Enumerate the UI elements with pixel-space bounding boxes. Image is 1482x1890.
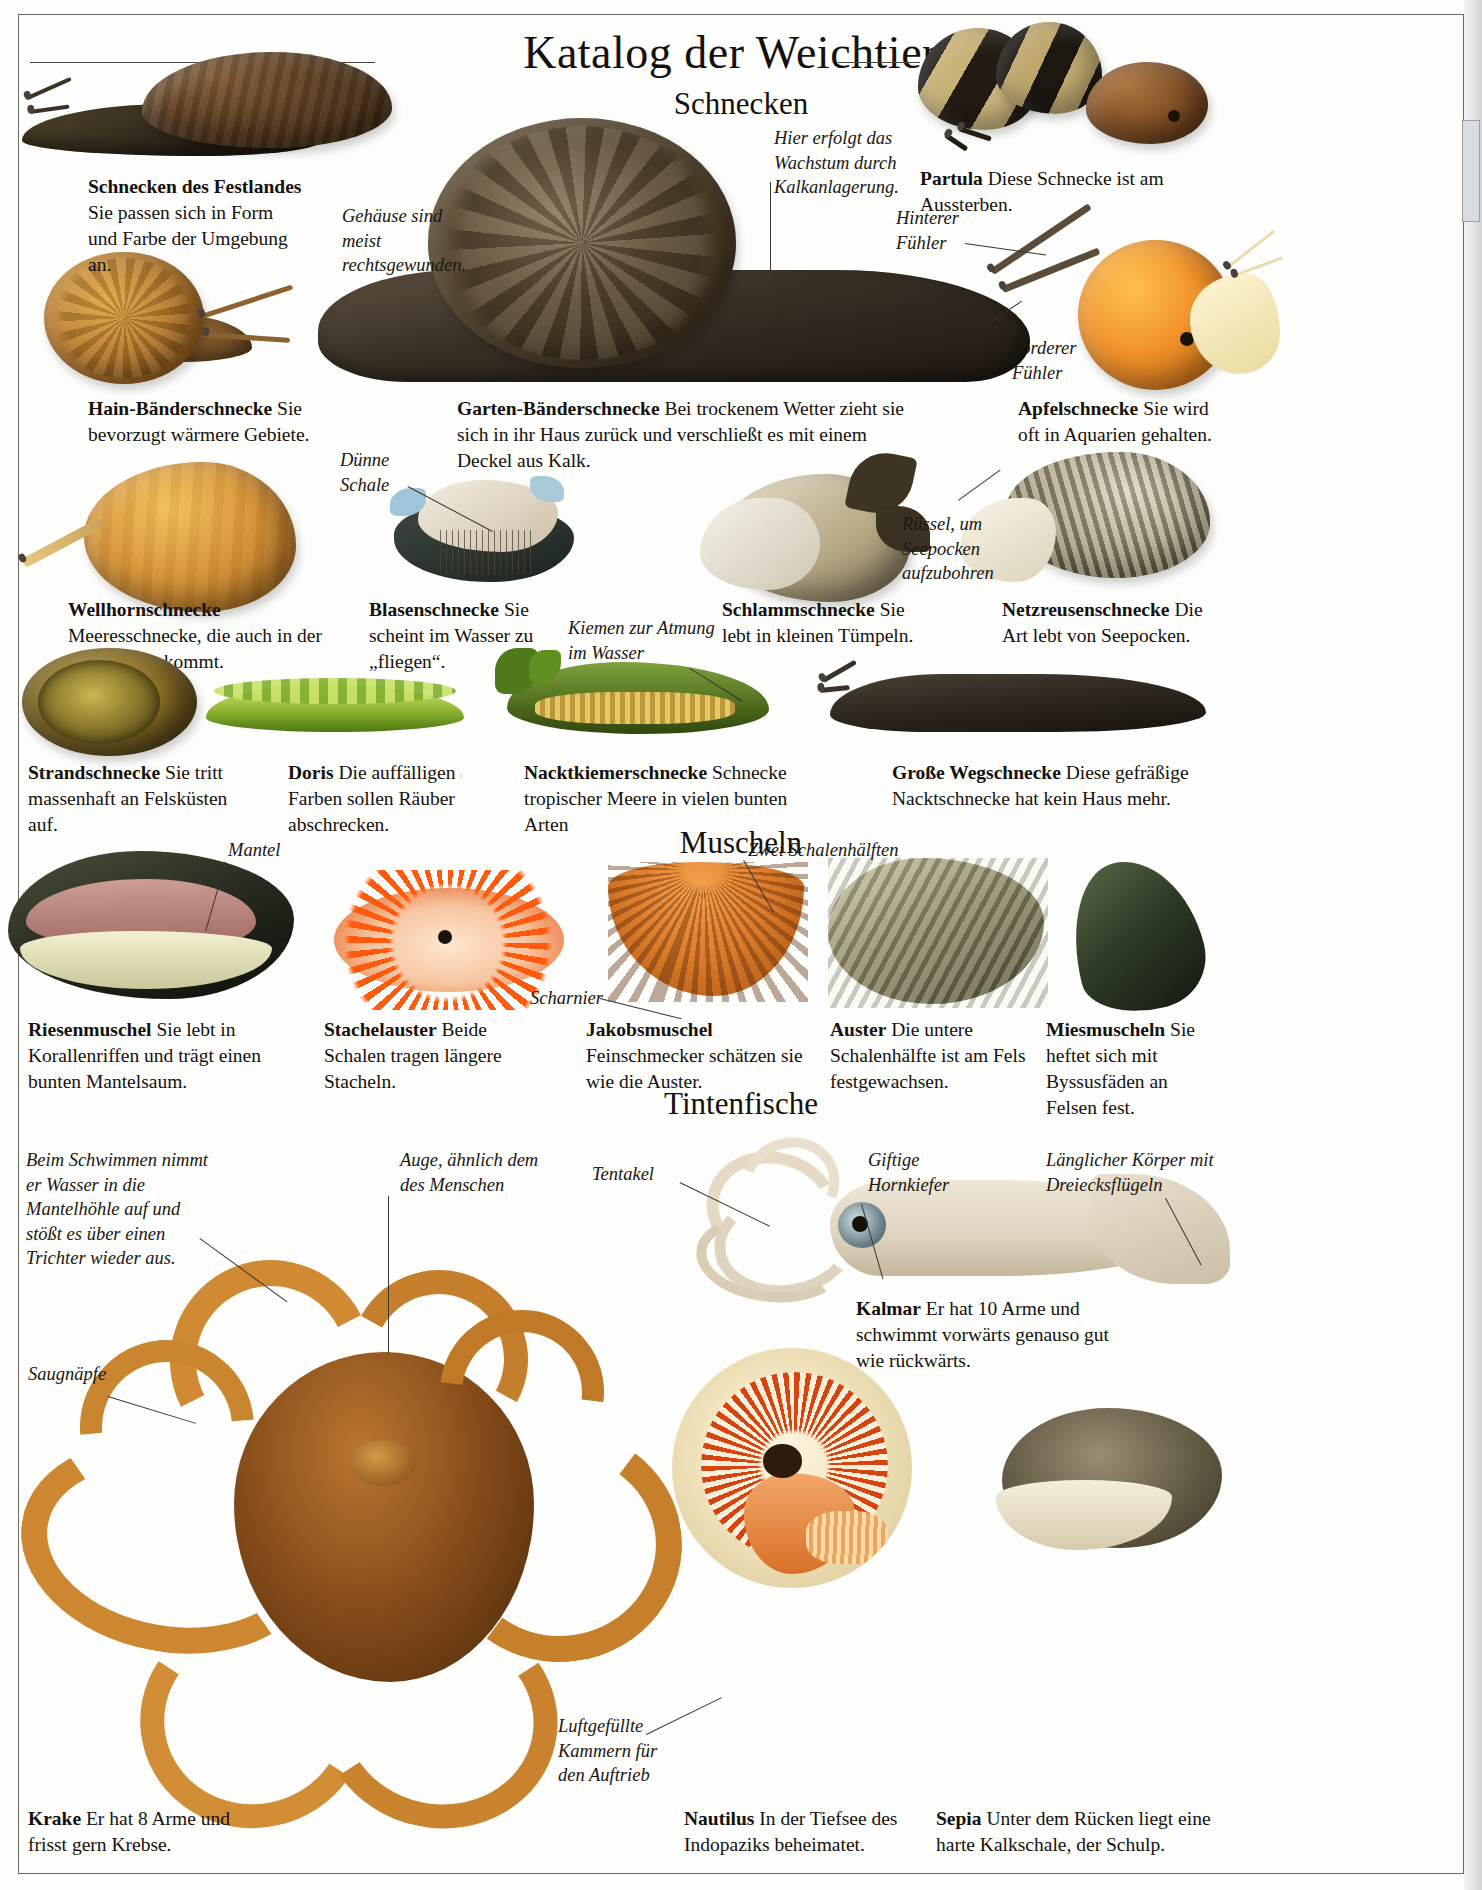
title-rule-right xyxy=(838,62,920,63)
annotation-tentakel: Tentakel xyxy=(592,1162,688,1187)
specimen-auster xyxy=(828,858,1048,1008)
annotation-vorderer-fuehler: Vorderer Fühler xyxy=(1012,336,1092,385)
caption-nautilus: Nautilus In der Tiefsee des Indopaziks b… xyxy=(684,1806,944,1858)
specimen-strandschnecke xyxy=(22,648,202,760)
specimen-apfelschnecke xyxy=(1078,240,1278,385)
caption-text: Sie passen sich in Form und Farbe der Um… xyxy=(88,202,288,275)
caption-grosse-wegschnecke: Große Wegschnecke Diese gefräßige Nackts… xyxy=(892,760,1214,812)
annotation-duenne-schale: Dünne Schale xyxy=(340,448,414,497)
annotation-zwei-schalenhaelften: Zwei Schalenhälften xyxy=(748,838,928,863)
caption-name: Apfelschnecke xyxy=(1018,398,1138,419)
caption-name: Partula xyxy=(920,168,983,189)
caption-name: Blasenschnecke xyxy=(369,599,499,620)
caption-schnecken-des-festlandes: Schnecken des Festlandes Sie passen sich… xyxy=(88,174,303,278)
caption-name: Große Wegschnecke xyxy=(892,762,1061,783)
caption-name: Nautilus xyxy=(684,1808,754,1829)
leader-auge xyxy=(388,1196,389,1354)
caption-name: Wellhornschnecke xyxy=(68,599,221,620)
caption-sepia: Sepia Unter dem Rücken liegt eine harte … xyxy=(936,1806,1236,1858)
caption-name: Nacktkiemerschnecke xyxy=(524,762,707,783)
caption-name: Strandschnecke xyxy=(28,762,160,783)
annotation-laenglicher-koerper: Länglicher Körper mit Dreiecksflügeln xyxy=(1046,1148,1236,1197)
caption-name: Jakobsmuschel xyxy=(586,1019,713,1040)
caption-name: Krake xyxy=(28,1808,81,1829)
annotation-wachstum: Hier erfolgt das Wachstum durch Kalkanla… xyxy=(774,126,924,200)
annotation-kiemen: Kiemen zur Atmung im Wasser xyxy=(568,616,728,665)
caption-text: Feinschmecker schätzen sie wie die Auste… xyxy=(586,1045,803,1092)
caption-netzreusenschnecke: Netzreusenschnecke Die Art lebt von Seep… xyxy=(1002,597,1212,649)
leader-wachstum xyxy=(770,182,771,280)
caption-hain-baenderschnecke: Hain-Bänderschnecke Sie bevorzugt wärmer… xyxy=(88,396,318,448)
caption-name: Miesmuscheln xyxy=(1046,1019,1165,1040)
specimen-riesenmuschel xyxy=(8,845,298,1005)
caption-name: Kalmar xyxy=(856,1298,921,1319)
page-edge-shadow xyxy=(1464,0,1482,1890)
caption-name: Hain-Bänderschnecke xyxy=(88,398,272,419)
catalog-page: Katalog der Weichtiere Schnecken xyxy=(0,0,1482,1890)
annotation-mantel: Mantel xyxy=(228,838,298,863)
caption-apfelschnecke: Apfelschnecke Sie wird oft in Aquarien g… xyxy=(1018,396,1228,448)
annotation-giftige-hornkiefer: Giftige Hornkiefer xyxy=(868,1148,978,1197)
annotation-luftgefuellte-kammern: Luftgefüllte Kammern für den Auftrieb xyxy=(558,1714,668,1788)
annotation-auge: Auge, ähnlich dem des Menschen xyxy=(400,1148,550,1197)
annotation-ruessel: Rüssel, um Seepocken aufzubohren xyxy=(902,512,1006,586)
caption-auster: Auster Die untere Schalenhälfte ist am F… xyxy=(830,1017,1035,1095)
caption-name: Auster xyxy=(830,1019,886,1040)
caption-name: Riesenmuschel xyxy=(28,1019,152,1040)
page-border-bottom xyxy=(18,1873,1464,1874)
caption-name: Schlammschnecke xyxy=(722,599,875,620)
annotation-saugnaepfe: Saugnäpfe xyxy=(28,1362,138,1387)
caption-name: Doris xyxy=(288,762,334,783)
caption-schlammschnecke: Schlammschnecke Sie lebt in kleinen Tümp… xyxy=(722,597,922,649)
section-heading-tintenfische: Tintenfische xyxy=(0,1086,1482,1122)
specimen-nautilus xyxy=(672,1348,912,1588)
caption-name: Sepia xyxy=(936,1808,982,1829)
caption-krake: Krake Er hat 8 Arme und frisst gern Kreb… xyxy=(28,1806,238,1858)
specimen-miesmuscheln xyxy=(1062,860,1212,1016)
page-tab-marker xyxy=(1462,120,1480,222)
caption-name: Netzreusenschnecke xyxy=(1002,599,1170,620)
caption-jakobsmuschel: Jakobsmuschel Feinschmecker schätzen sie… xyxy=(586,1017,808,1095)
specimen-sepia xyxy=(996,1384,1228,1574)
specimen-doris xyxy=(206,668,466,746)
annotation-schwimmen: Beim Schwimmen nimmt er Wasser in die Ma… xyxy=(26,1148,208,1271)
page-border-top xyxy=(18,14,1464,15)
annotation-gehaeuse: Gehäuse sind meist rechtsgewunden. xyxy=(342,204,472,278)
specimen-schlammschnecke xyxy=(700,452,930,602)
caption-name: Schnecken des Festlandes xyxy=(88,176,301,197)
specimen-grosse-wegschnecke xyxy=(806,660,1210,740)
specimen-jakobsmuschel xyxy=(608,862,808,1002)
caption-name: Garten-Bänderschnecke xyxy=(457,398,660,419)
caption-stachelauster: Stachelauster Beide Schalen tragen länge… xyxy=(324,1017,534,1095)
caption-name: Stachelauster xyxy=(324,1019,437,1040)
caption-riesenmuschel: Riesenmuschel Sie lebt in Korallenriffen… xyxy=(28,1017,264,1095)
caption-partula: Partula Diese Schnecke ist am Aussterben… xyxy=(920,166,1220,218)
